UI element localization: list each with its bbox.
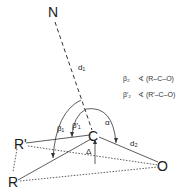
- point-label-c: C: [88, 128, 98, 144]
- line-rprime-o: [28, 146, 158, 165]
- label-beta1: β₁: [57, 124, 65, 133]
- label-alpha: α: [105, 118, 110, 127]
- line-c-o: [99, 137, 158, 162]
- point-label-n: N: [48, 4, 58, 20]
- line-r-o: [20, 167, 158, 181]
- arc-beta1-prime-arrow: [70, 132, 74, 137]
- label-d2: d₂: [130, 139, 138, 148]
- label-delta: Δ: [86, 147, 92, 156]
- line-c-rprime: [26, 135, 90, 143]
- legend-symbol-beta2: β₂: [123, 75, 130, 83]
- geometry-diagram: N C R' R O d₁ d₂ Δ α β₁ β′₁ β₂ ∢ (R–C–O)…: [0, 0, 188, 195]
- line-n-c: [55, 22, 92, 130]
- line-r-rprime: [13, 149, 17, 172]
- arc-beta1-arrow: [51, 153, 55, 158]
- point-label-r: R: [8, 174, 18, 190]
- legend-text-beta2-prime: ∢ (R′–C–O): [138, 91, 175, 99]
- point-label-o: O: [157, 158, 168, 174]
- label-beta1-prime: β′₁: [72, 121, 81, 130]
- point-label-r-prime: R': [14, 136, 27, 152]
- legend-symbol-beta2-prime: β′₂: [123, 91, 131, 99]
- arc-alpha-arrow: [114, 138, 118, 143]
- label-d1: d₁: [78, 63, 85, 72]
- legend-text-beta2: ∢ (R–C–O): [138, 75, 174, 83]
